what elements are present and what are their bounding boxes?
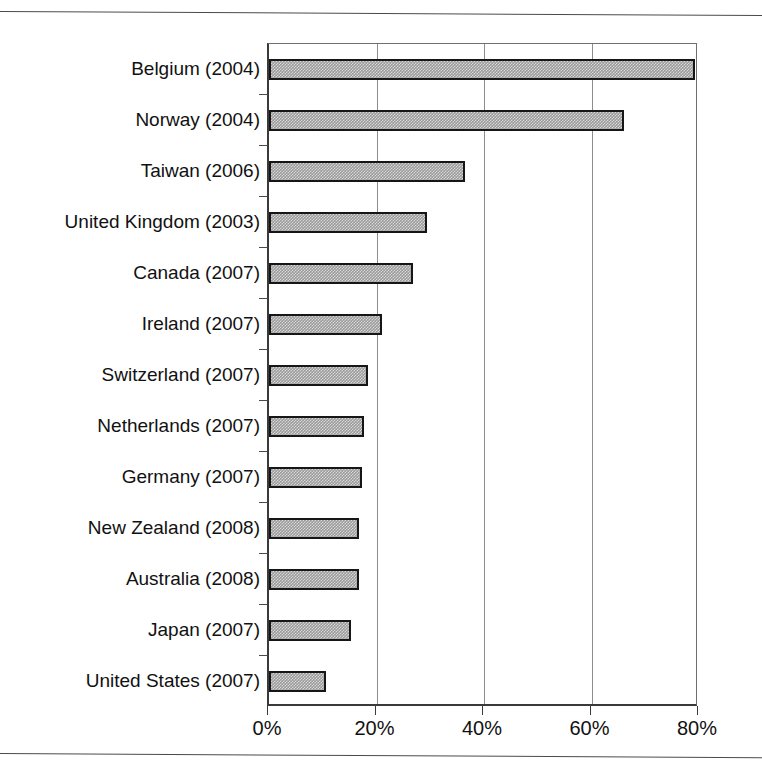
bar-row	[269, 197, 696, 248]
category-tick	[259, 451, 268, 452]
bar-row	[269, 401, 696, 452]
bar-row	[269, 146, 696, 197]
value-tick	[482, 706, 483, 715]
category-label: United States (2007)	[12, 670, 260, 692]
category-label: Ireland (2007)	[12, 313, 260, 335]
category-label: Australia (2008)	[12, 568, 260, 590]
category-label: New Zealand (2008)	[12, 517, 260, 539]
category-label: Taiwan (2006)	[12, 160, 260, 182]
category-tick	[259, 145, 268, 146]
bar[interactable]	[269, 467, 362, 488]
plot-area	[267, 43, 697, 706]
bar[interactable]	[269, 620, 351, 641]
value-tick	[590, 706, 591, 715]
category-tick	[259, 349, 268, 350]
category-tick	[259, 196, 268, 197]
bar-row	[269, 605, 696, 656]
value-tick	[697, 706, 698, 715]
bar[interactable]	[269, 314, 382, 335]
category-label: United Kingdom (2003)	[12, 211, 260, 233]
value-tick-label: 40%	[437, 716, 527, 740]
bar[interactable]	[269, 416, 364, 437]
bar[interactable]	[269, 518, 359, 539]
bar[interactable]	[269, 569, 359, 590]
bar-row	[269, 350, 696, 401]
category-label: Belgium (2004)	[12, 58, 260, 80]
value-tick	[267, 706, 268, 715]
figure: Belgium (2004)Norway (2004)Taiwan (2006)…	[0, 0, 762, 772]
category-axis-labels: Belgium (2004)Norway (2004)Taiwan (2006)…	[10, 43, 260, 706]
bar[interactable]	[269, 671, 326, 692]
category-tick	[259, 604, 268, 605]
category-tick	[259, 298, 268, 299]
bar[interactable]	[269, 59, 695, 80]
value-tick-label: 80%	[652, 716, 742, 740]
bar-row	[269, 95, 696, 146]
bar-row	[269, 299, 696, 350]
category-label: Netherlands (2007)	[12, 415, 260, 437]
bar[interactable]	[269, 263, 413, 284]
category-tick	[259, 400, 268, 401]
category-tick	[259, 247, 268, 248]
category-label: Germany (2007)	[12, 466, 260, 488]
bar-row	[269, 44, 696, 95]
category-label: Japan (2007)	[12, 619, 260, 641]
bar-row	[269, 248, 696, 299]
bar[interactable]	[269, 365, 368, 386]
category-tick	[259, 94, 268, 95]
value-tick-label: 0%	[222, 716, 312, 740]
bar-row	[269, 503, 696, 554]
category-label: Norway (2004)	[12, 109, 260, 131]
value-tick-label: 60%	[545, 716, 635, 740]
bar[interactable]	[269, 212, 427, 233]
category-label: Switzerland (2007)	[12, 364, 260, 386]
category-tick	[259, 655, 268, 656]
bar-row	[269, 554, 696, 605]
bar[interactable]	[269, 110, 624, 131]
bar-row	[269, 452, 696, 503]
bar[interactable]	[269, 161, 465, 182]
value-tick-label: 20%	[330, 716, 420, 740]
category-tick	[259, 553, 268, 554]
bar-chart: Belgium (2004)Norway (2004)Taiwan (2006)…	[0, 0, 762, 772]
value-tick	[375, 706, 376, 715]
category-tick	[259, 502, 268, 503]
bar-row	[269, 656, 696, 707]
category-label: Canada (2007)	[12, 262, 260, 284]
